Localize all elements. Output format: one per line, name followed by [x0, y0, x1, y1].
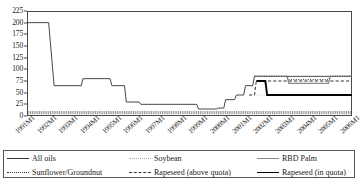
y-axis-tick-label: 100 [12, 65, 23, 73]
legend-swatch-icon [7, 169, 29, 176]
x-axis-tick-label: 1992M1 [35, 114, 58, 135]
y-axis-tick-label: 200 [12, 19, 23, 27]
legend-swatch-icon [257, 155, 279, 162]
legend-item[interactable]: Rapeseed (in quota) [254, 165, 354, 179]
legend-label: Rapeseed (above quota) [154, 168, 231, 177]
chart-legend: All oilsSoybeanRBD PalmSunflower/Groundn… [3, 150, 355, 178]
legend-label: Soybean [154, 154, 182, 163]
legend-swatch-icon [129, 169, 151, 176]
y-axis-tick-label: 75 [16, 77, 23, 85]
y-axis-tick-label: 225 [12, 7, 23, 15]
legend-swatch-icon [7, 155, 29, 162]
x-axis-minor-ticks [27, 111, 352, 115]
y-axis-tick-label: 175 [12, 30, 23, 38]
legend-item[interactable]: All oils [4, 151, 126, 165]
x-axis-tick-label: 2004M1 [295, 114, 318, 135]
legend-label: RBD Palm [282, 154, 317, 163]
x-axis-tick-label: 1994M1 [79, 114, 102, 135]
y-axis-tick-label: 150 [12, 42, 23, 50]
cropped-text-trim [0, 0, 358, 3]
x-axis-tick-label: 1991M1 [14, 114, 37, 135]
series-canvas [27, 11, 352, 116]
x-axis-tick-label: 2001M1 [230, 114, 253, 135]
legend-label: Sunflower/Groundnut [32, 168, 102, 177]
x-axis-tick-label: 2000M1 [209, 114, 232, 135]
legend-swatch-icon [257, 169, 279, 176]
y-axis-tick-label: 0 [19, 112, 23, 120]
legend-item[interactable]: RBD Palm [254, 151, 354, 165]
chart-plot-region: 2252001751501251007550250 [0, 4, 358, 116]
x-axis: 1991M11992M11993M11994M11995M11996M11997… [27, 114, 352, 152]
legend-swatch-icon [129, 155, 151, 162]
legend-label: Rapeseed (in quota) [282, 168, 346, 177]
x-axis-tick-label: 1995M1 [100, 114, 123, 135]
x-axis-tick-label: 1998M1 [165, 114, 188, 135]
y-axis-tick-label: 125 [12, 54, 23, 62]
x-axis-tick-label: 1997M1 [144, 114, 167, 135]
x-axis-tick-label: 2006M1 [339, 114, 361, 135]
legend-item[interactable]: Sunflower/Groundnut [4, 165, 126, 179]
legend-item[interactable]: Soybean [126, 151, 254, 165]
x-axis-tick-label: 2002M1 [252, 114, 275, 135]
x-axis-tick-label: 2005M1 [317, 114, 340, 135]
x-axis-tick-label: 1996M1 [122, 114, 145, 135]
y-axis-tick-label: 25 [16, 100, 23, 108]
series-line-sunflower-groundnut [255, 76, 353, 79]
y-axis-tick-label: 50 [16, 89, 23, 97]
legend-item[interactable]: Rapeseed (above quota) [126, 165, 254, 179]
x-axis-tick-label: 1999M1 [187, 114, 210, 135]
y-axis: 2252001751501251007550250 [0, 11, 27, 116]
legend-label: All oils [32, 154, 56, 163]
x-axis-tick-label: 1993M1 [57, 114, 80, 135]
x-axis-tick-label: 2003M1 [274, 114, 297, 135]
series-line-all-oils [27, 23, 352, 109]
